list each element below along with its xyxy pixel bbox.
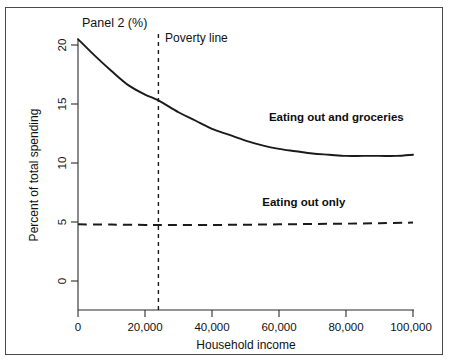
- y-tick-label-5: 5: [56, 219, 68, 225]
- x-tick-label-100000: 100,000: [390, 321, 432, 333]
- x-tick-label-60000: 60,000: [261, 321, 296, 333]
- panel-title: Panel 2 (%): [82, 16, 147, 30]
- x-tick-label-40000: 40,000: [194, 321, 229, 333]
- y-tick-label-20: 20: [56, 39, 68, 52]
- x-tick-label-20000: 20,000: [127, 321, 162, 333]
- y-axis-title: Percent of total spending: [27, 109, 41, 242]
- figure-panel-2: 20 15 10 5 0 Percent of total spending 0…: [0, 0, 450, 363]
- y-tick-label-0: 0: [56, 278, 68, 284]
- series-label-eating-out-and-groceries: Eating out and groceries: [269, 111, 404, 123]
- x-tick-label-80000: 80,000: [328, 321, 363, 333]
- series-line-eating-out-and-groceries: [78, 39, 413, 156]
- x-tick-label-0: 0: [75, 321, 81, 333]
- chart-canvas: 20 15 10 5 0 Percent of total spending 0…: [0, 0, 450, 363]
- x-axis-title: Household income: [196, 338, 296, 352]
- series-line-eating-out-only: [78, 223, 413, 225]
- poverty-line-label: Poverty line: [165, 31, 228, 45]
- series-label-eating-out-only: Eating out only: [262, 196, 346, 208]
- y-tick-label-15: 15: [56, 98, 68, 111]
- y-tick-label-10: 10: [56, 157, 68, 170]
